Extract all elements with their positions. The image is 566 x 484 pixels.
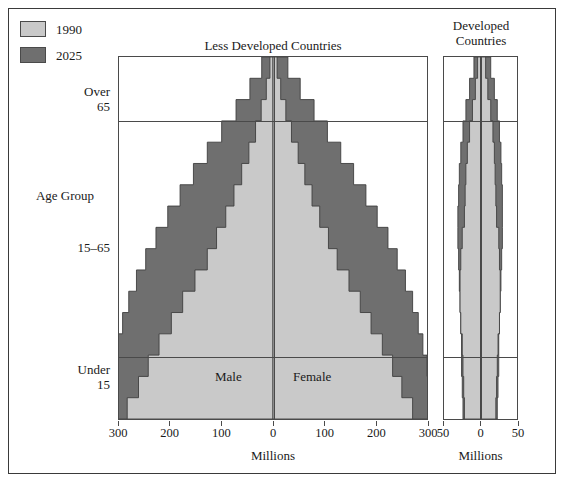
legend: 1990 2025 (20, 18, 82, 70)
legend-label-1990: 1990 (56, 23, 82, 36)
label-male: Male (215, 369, 242, 385)
panel-title-less-developed: Less Developed Countries (118, 38, 428, 53)
plot-area-developed (443, 56, 518, 420)
label-female: Female (293, 369, 331, 385)
plot-area-less-developed (118, 56, 428, 420)
x-tick-label: 0 (477, 426, 483, 441)
x-tick-label: 0 (270, 426, 276, 441)
x-axis-title-less-developed: Millions (118, 448, 428, 464)
y-axis-title: Age Group (20, 188, 110, 203)
x-tick-label: 50 (437, 426, 450, 441)
x-tick-label: 200 (160, 426, 179, 441)
population-pyramid-figure: 1990 2025 Less Developed Countries Devel… (0, 0, 566, 484)
age-band-label-over-65: Over 65 (28, 84, 110, 114)
legend-item-2025: 2025 (20, 44, 82, 66)
legend-swatch-2025-icon (20, 47, 46, 63)
age-band-label-15-65: 15–65 (28, 240, 110, 255)
x-tick-label: 200 (367, 426, 386, 441)
x-axis-title-developed: Millions (443, 448, 518, 464)
panel-title-developed-line1: Developed (436, 18, 526, 33)
legend-item-1990: 1990 (20, 18, 82, 40)
center-axis-line (274, 57, 275, 419)
legend-swatch-1990-icon (20, 21, 46, 37)
legend-label-2025: 2025 (56, 49, 82, 62)
x-tick-label: 100 (315, 426, 334, 441)
x-tick-label: 100 (212, 426, 231, 441)
x-tick-label: 50 (512, 426, 525, 441)
center-axis-line-dev (481, 57, 482, 419)
x-axis-less-developed: 3002001000100200300 (118, 421, 428, 451)
panel-title-developed: Developed Countries (436, 18, 526, 48)
panel-title-developed-line2: Countries (436, 33, 526, 48)
x-tick-label: 300 (419, 426, 438, 441)
x-axis-developed: 50050 (443, 421, 518, 451)
x-tick-label: 300 (109, 426, 128, 441)
age-band-label-under-15: Under 15 (28, 362, 110, 392)
